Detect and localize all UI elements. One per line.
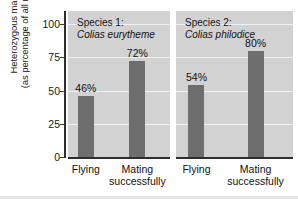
x-axis-category-label: Flying bbox=[182, 163, 210, 175]
x-axis-category-line1: Flying bbox=[182, 163, 210, 175]
panel-title-2: Species 2: bbox=[185, 17, 232, 28]
y-axis-tick-mark bbox=[60, 24, 65, 25]
bar bbox=[129, 61, 145, 157]
x-axis-spine-2 bbox=[176, 157, 293, 159]
bar-value-label: 54% bbox=[186, 71, 207, 83]
panel-species-name-1: Colias eurytheme bbox=[77, 29, 155, 40]
y-axis-tick-mark bbox=[60, 91, 65, 92]
gridline bbox=[68, 57, 170, 58]
y-axis-tick-mark bbox=[60, 157, 65, 158]
gridline bbox=[176, 57, 293, 58]
x-axis-category-line1: Mating bbox=[109, 163, 166, 175]
y-axis-tick-label: 0 bbox=[54, 151, 60, 163]
x-axis-category-label: Matingsuccessfully bbox=[227, 163, 284, 188]
x-axis-category-line1: Flying bbox=[72, 163, 100, 175]
y-axis-label-line2: (as percentage of all males) bbox=[20, 0, 31, 88]
y-axis-tick-label: 25 bbox=[48, 118, 60, 130]
y-axis-spine bbox=[64, 11, 66, 158]
y-axis-label: Heterozygous males (as percentage of all… bbox=[3, 0, 37, 106]
chart-panel-1: Species 1:Colias eurytheme46%72% bbox=[68, 11, 170, 157]
panel-title-1: Species 1: bbox=[77, 17, 124, 28]
x-axis-category-line1: Mating bbox=[227, 163, 284, 175]
bar bbox=[188, 85, 204, 157]
x-axis-category-label: Matingsuccessfully bbox=[109, 163, 166, 188]
bar bbox=[78, 96, 94, 157]
y-axis-tick-label: 50 bbox=[48, 85, 60, 97]
bar bbox=[248, 51, 264, 157]
bar-value-label: 80% bbox=[245, 37, 266, 49]
x-axis-category-label: Flying bbox=[72, 163, 100, 175]
chart-panel-2: Species 2:Colias philodice54%80% bbox=[176, 11, 293, 157]
y-axis-tick-mark bbox=[60, 57, 65, 58]
bar-value-label: 46% bbox=[75, 82, 96, 94]
x-axis-spine-1 bbox=[68, 157, 170, 159]
bar-value-label: 72% bbox=[127, 47, 148, 59]
bottom-rule bbox=[0, 196, 298, 199]
x-axis-category-line2: successfully bbox=[109, 175, 166, 187]
y-axis-tick-label: 100 bbox=[42, 18, 60, 30]
bar-chart-figure: Heterozygous males (as percentage of all… bbox=[0, 0, 298, 202]
x-axis-category-line2: successfully bbox=[227, 175, 284, 187]
y-axis-tick-mark bbox=[60, 124, 65, 125]
y-axis-tick-label: 75 bbox=[48, 51, 60, 63]
